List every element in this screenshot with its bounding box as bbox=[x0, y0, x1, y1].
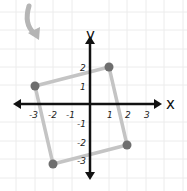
y-tick-label: -3 bbox=[77, 156, 86, 166]
vertex-point bbox=[105, 63, 114, 72]
vertex-point bbox=[49, 160, 58, 169]
y-axis bbox=[85, 36, 95, 180]
x-tick-label: -2 bbox=[48, 110, 57, 120]
x-tick-label: -3 bbox=[29, 110, 38, 120]
y-axis-down-arrow-icon bbox=[85, 172, 95, 180]
tilted-square bbox=[31, 63, 132, 169]
y-tick-labels: 2 1 -1 -2 -3 bbox=[77, 63, 86, 166]
x-axis-left-arrow-icon bbox=[13, 99, 21, 109]
y-tick-label: -1 bbox=[77, 119, 86, 129]
y-tick-label: -2 bbox=[77, 138, 86, 148]
vertex-point bbox=[123, 141, 132, 150]
x-axis-right-arrow-icon bbox=[154, 99, 162, 109]
y-axis-label: y bbox=[86, 26, 95, 44]
x-tick-label: 3 bbox=[144, 110, 150, 120]
diagram-canvas: x y -3 -2 -1 1 2 3 2 1 -1 -2 -3 bbox=[0, 0, 187, 191]
x-tick-label: 1 bbox=[107, 110, 113, 120]
y-tick-label: 2 bbox=[80, 63, 86, 73]
x-axis-label: x bbox=[166, 95, 175, 113]
rotation-arrow-icon bbox=[27, 6, 40, 40]
y-tick-label: 1 bbox=[80, 82, 86, 92]
x-tick-label: 2 bbox=[125, 110, 131, 120]
x-tick-label: -1 bbox=[66, 110, 75, 120]
vertex-point bbox=[31, 82, 40, 91]
coordinate-plane-diagram: x y -3 -2 -1 1 2 3 2 1 -1 -2 -3 bbox=[0, 0, 187, 191]
